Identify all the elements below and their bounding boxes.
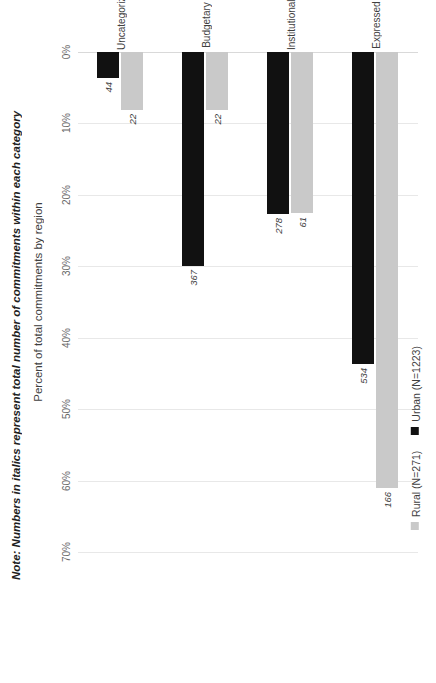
- bar-value-label: 367: [189, 270, 200, 286]
- bar-institutional-urban: [268, 52, 290, 214]
- tick-label: 60%: [61, 464, 72, 498]
- gridline: [78, 409, 418, 410]
- bar-expressed-rural: [377, 52, 399, 488]
- plot-canvas: 16653461278223672244: [78, 52, 418, 552]
- tick-label: 20%: [61, 178, 72, 212]
- legend-item[interactable]: Rural (N=271): [409, 451, 422, 530]
- tick-label: 50%: [61, 392, 72, 426]
- category-label: Expressed: [372, 0, 383, 50]
- tick-label: 40%: [61, 321, 72, 355]
- tick-label: 10%: [61, 106, 72, 140]
- category-label: Budgetary: [202, 0, 213, 50]
- bar-budgetary-urban: [183, 52, 205, 266]
- tick-label: 70%: [61, 535, 72, 569]
- category-label: Institutional: [287, 0, 298, 50]
- gridline: [78, 552, 418, 553]
- bar-value-label: 44: [104, 82, 115, 93]
- chart-rotation-wrapper: 16653461278223672244 0%10%20%30%40%50%60…: [0, 0, 436, 683]
- legend-item[interactable]: Urban (N=1223): [409, 346, 422, 435]
- bar-value-label: 22: [213, 114, 224, 125]
- legend-label: Rural (N=271): [410, 451, 422, 517]
- category-label: Uncategorized: [117, 0, 128, 50]
- bar-budgetary-rural: [207, 52, 229, 110]
- bar-uncategorized-urban: [98, 52, 120, 78]
- chart-legend: Rural (N=271)Urban (N=1223): [409, 300, 422, 560]
- bar-value-label: 166: [383, 492, 394, 508]
- bar-institutional-rural: [292, 52, 314, 213]
- value-axis-title: Percent of total commitments by region: [32, 52, 44, 552]
- bar-chart: 16653461278223672244 0%10%20%30%40%50%60…: [0, 0, 436, 683]
- tick-label: 30%: [61, 249, 72, 283]
- plot-area: 16653461278223672244: [78, 52, 418, 552]
- bar-value-label: 61: [298, 217, 309, 228]
- bar-value-label: 278: [274, 218, 285, 234]
- chart-note: Note: Numbers in italics represent total…: [10, 120, 22, 580]
- bar-value-label: 534: [359, 368, 370, 384]
- bar-value-label: 22: [128, 114, 139, 125]
- legend-swatch-urban-icon: [411, 427, 419, 435]
- legend-label: Urban (N=1223): [410, 346, 422, 422]
- gridline: [78, 481, 418, 482]
- bar-expressed-urban: [353, 52, 375, 364]
- bar-uncategorized-rural: [122, 52, 144, 110]
- legend-swatch-rural-icon: [411, 522, 419, 530]
- tick-label: 0%: [61, 35, 72, 69]
